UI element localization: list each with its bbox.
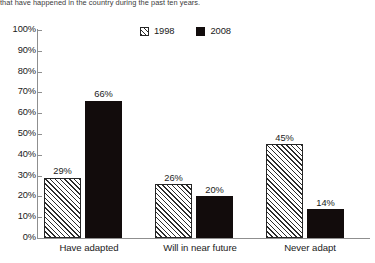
y-axis-label-70: 70% [2, 87, 36, 96]
y-axis-tick [38, 238, 42, 239]
bar-1998-never-adapt[interactable]: 45% [266, 144, 303, 238]
y-axis-label-20: 20% [2, 191, 36, 200]
bar-1998-have-adapted[interactable]: 29% [44, 178, 81, 238]
bar-value-label: 14% [316, 199, 334, 208]
y-axis-label-100: 100% [2, 25, 36, 34]
y-axis-label-80: 80% [2, 67, 36, 76]
bar-value-label: 26% [164, 174, 182, 183]
bar-value-label: 29% [53, 167, 71, 176]
x-axis-line [37, 238, 370, 239]
bar-2008-never-adapt[interactable]: 14% [307, 209, 344, 238]
y-axis-label-30: 30% [2, 171, 36, 180]
bar-2008-will-in-near-future[interactable]: 20% [196, 196, 233, 238]
y-axis-label-60: 60% [2, 108, 36, 117]
y-axis-label-0: 0% [2, 233, 36, 242]
bar-value-label: 66% [94, 90, 112, 99]
x-axis-category-will-in-near-future: Will in near future [150, 242, 250, 253]
bar-1998-will-in-near-future[interactable]: 26% [155, 184, 192, 238]
caption-text: that have happened in the country during… [0, 0, 375, 8]
plot-area: 29% 66% 26% 20% 45% 14% [38, 30, 370, 238]
y-axis-label-10: 10% [2, 212, 36, 221]
bar-value-label: 45% [275, 134, 293, 143]
y-axis-label-50: 50% [2, 129, 36, 138]
bar-value-label: 20% [205, 186, 223, 195]
x-axis-category-never-adapt: Never adapt [262, 242, 358, 253]
bar-chart: 100% 90% 80% 70% 60% 50% 40% 30% 20% 10%… [0, 8, 375, 263]
bar-2008-have-adapted[interactable]: 66% [85, 101, 122, 238]
x-axis-category-have-adapted: Have adapted [44, 242, 134, 253]
y-axis-label-90: 90% [2, 46, 36, 55]
y-axis-label-40: 40% [2, 150, 36, 159]
